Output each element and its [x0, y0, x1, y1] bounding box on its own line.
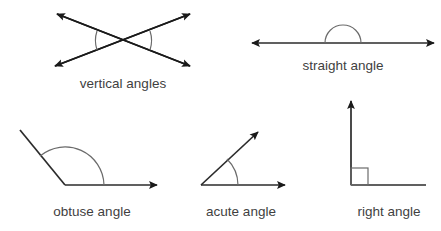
- obtuse-angle-figure: obtuse angle: [20, 130, 157, 219]
- right-angle-label: right angle: [357, 204, 420, 219]
- vertical-angles-arc-left: [95, 31, 97, 50]
- right-angle-figure: right angle: [351, 101, 426, 219]
- angles-diagram: vertical angles straight angle obtuse an…: [0, 0, 441, 231]
- vertical-angles-arc-right: [150, 31, 152, 50]
- obtuse-angle-label: obtuse angle: [53, 204, 130, 219]
- straight-angle-arc: [325, 25, 361, 43]
- vertical-angles-label: vertical angles: [80, 76, 167, 91]
- acute-angle-figure: acute angle: [201, 132, 285, 219]
- acute-angle-label: acute angle: [206, 204, 276, 219]
- vertical-angles-figure: vertical angles: [55, 14, 190, 91]
- straight-angle-figure: straight angle: [252, 25, 434, 73]
- right-angle-square-marker: [351, 168, 368, 185]
- straight-angle-label: straight angle: [302, 58, 383, 73]
- acute-angle-arc: [227, 159, 238, 185]
- acute-angle-ray-diagonal: [201, 132, 258, 185]
- figure-canvas: vertical angles straight angle obtuse an…: [0, 0, 441, 231]
- obtuse-angle-ray-upper: [20, 130, 65, 185]
